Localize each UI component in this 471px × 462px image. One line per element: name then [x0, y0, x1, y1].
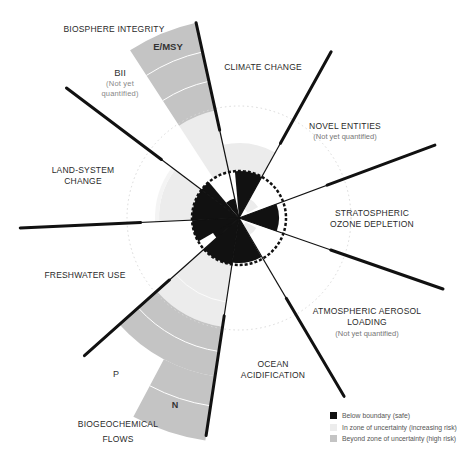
label-p: P: [113, 369, 119, 379]
legend-swatch-safe: [330, 412, 337, 419]
legend-swatch-uncertainty: [330, 424, 337, 431]
label-ocean-acidification: OCEANACIDIFICATION: [241, 359, 305, 382]
legend-item-high-risk: Beyond zone of uncertainty (high risk): [330, 433, 457, 445]
label-land-system-change: LAND-SYSTEMCHANGE: [52, 165, 115, 188]
label-novel-entities: NOVEL ENTITIES(Not yet quantified): [309, 121, 381, 143]
label-n: N: [172, 400, 179, 410]
label-biogeochemical-flows: BIOGEOCHEMICALFLOWS: [78, 417, 158, 447]
label-aerosol-loading: ATMOSPHERIC AEROSOLLOADING(Not yet quant…: [313, 306, 422, 339]
bii-note: (Not yetquantified): [101, 79, 138, 99]
spoke-novel-ozone-outer: [327, 145, 435, 185]
label-freshwater-use: FRESHWATER USE: [44, 270, 125, 281]
label-emsy: E/MSY: [153, 41, 183, 52]
legend-swatch-high-risk: [330, 435, 337, 442]
label-climate-change: CLIMATE CHANGE: [224, 62, 302, 73]
label-ozone-depletion: STRATOSPHERICOZONE DEPLETION: [330, 208, 414, 231]
spoke-ozone-aerosol-outer: [331, 250, 443, 289]
legend-item-uncertainty: In zone of uncertainty (increasing risk): [330, 422, 457, 434]
emsy-high-risk: [130, 23, 215, 126]
legend: Below boundary (safe) In zone of uncerta…: [330, 410, 457, 445]
legend-item-safe: Below boundary (safe): [330, 410, 457, 422]
label-bii: BII: [114, 67, 126, 78]
label-biosphere-integrity: BIOSPHERE INTEGRITY: [63, 24, 164, 35]
spoke-freshwater-land-outer: [20, 222, 140, 227]
